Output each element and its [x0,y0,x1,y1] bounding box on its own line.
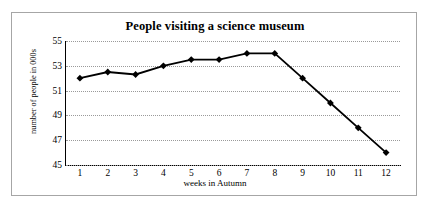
data-point-marker [188,56,195,63]
x-axis-tick-label: 1 [68,168,92,178]
x-axis-tick-label: 6 [207,168,231,178]
data-point-marker [132,71,139,78]
chart-title: People visiting a science museum [12,19,418,34]
x-axis-tick-label: 12 [374,168,398,178]
data-point-marker [160,62,167,69]
data-point-marker [216,56,223,63]
data-point-marker [77,75,84,82]
x-axis-tick-label: 3 [124,168,148,178]
y-axis-tick-label: 45 [32,160,62,170]
y-axis-tick-labels: 454749515355 [30,41,62,165]
x-axis-tick-label: 5 [179,168,203,178]
y-axis-tick-label: 47 [32,135,62,145]
y-axis-tick-label: 51 [32,86,62,96]
series-line [80,53,386,152]
x-axis-tick-label: 4 [151,168,175,178]
data-series [66,41,400,165]
x-axis-tick-label: 7 [235,168,259,178]
x-axis-tick-label: 11 [346,168,370,178]
data-point-marker [244,50,251,57]
y-axis-tick-label: 49 [32,110,62,120]
x-axis-tick-label: 10 [318,168,342,178]
plot-area [66,41,400,165]
data-point-marker [104,69,111,76]
x-axis-tick-label: 8 [263,168,287,178]
x-axis-title: weeks in Autumn [12,178,418,188]
chart-frame: People visiting a science museum number … [11,12,417,196]
gridline [66,165,400,166]
y-axis-tick-label: 55 [32,36,62,46]
y-axis-tick-label: 53 [32,61,62,71]
x-axis-tick-label: 2 [96,168,120,178]
x-axis-tick-label: 9 [291,168,315,178]
